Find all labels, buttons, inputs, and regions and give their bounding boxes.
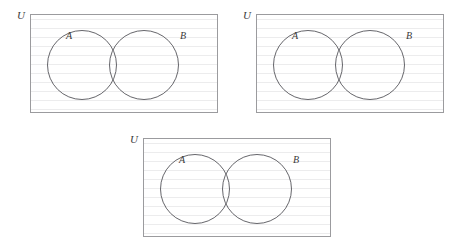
universe-frame [256, 14, 444, 113]
circle-set-a [274, 31, 343, 100]
figure-canvas: U A B U A B U [0, 0, 452, 248]
circle-set-a [48, 31, 117, 100]
circle-set-b [110, 31, 179, 100]
set-label-a: A [292, 31, 298, 41]
universe-frame [143, 138, 331, 237]
set-label-a: A [66, 31, 72, 41]
universe-frame [30, 14, 218, 113]
circle-set-b [223, 155, 292, 224]
universe-label: U [243, 10, 251, 21]
set-label-a: A [179, 155, 185, 165]
circle-set-a [161, 155, 230, 224]
circle-set-b [336, 31, 405, 100]
set-label-b: B [406, 31, 412, 41]
universe-label: U [17, 10, 25, 21]
set-circles [144, 139, 331, 237]
set-label-b: B [180, 31, 186, 41]
set-label-b: B [293, 155, 299, 165]
universe-label: U [130, 134, 138, 145]
set-circles [31, 15, 218, 113]
set-circles [257, 15, 444, 113]
